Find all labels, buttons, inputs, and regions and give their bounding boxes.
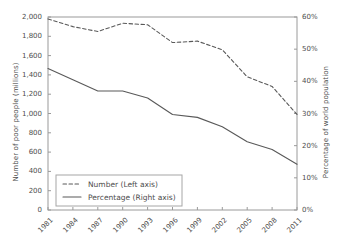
y-tick-label-right: 20%	[302, 142, 318, 150]
chart-canvas: Number (Left axis)Percentage (Right axis…	[0, 0, 344, 244]
y-tick-label-right: 0%	[302, 206, 313, 214]
y-tick-label-right: 50%	[302, 45, 318, 53]
y-tick-label-left: 200	[0, 187, 42, 195]
y-tick-label-left: 1,600	[0, 52, 42, 60]
y-tick-label-left: 1,200	[0, 90, 42, 98]
y-tick-label-right: 10%	[302, 174, 318, 182]
legend-label: Number (Left axis)	[88, 180, 158, 189]
y-tick-label-right: 40%	[302, 77, 318, 85]
legend-label: Percentage (Right axis)	[88, 193, 176, 202]
y-tick-label-right: 30%	[302, 110, 318, 118]
y-tick-label-left: 1,800	[0, 32, 42, 40]
data-series-layer	[48, 19, 297, 164]
y-tick-label-left: 0	[0, 206, 42, 214]
y-tick-label-left: 2,000	[0, 13, 42, 21]
y-tick-label-left: 600	[0, 148, 42, 156]
y-tick-label-left: 1,000	[0, 110, 42, 118]
chart-legend: Number (Left axis)Percentage (Right axis…	[56, 175, 182, 206]
chart-figure: Number (Left axis)Percentage (Right axis…	[0, 0, 344, 244]
y-tick-label-left: 1,400	[0, 71, 42, 79]
data-line-percentage	[48, 68, 297, 164]
y-tick-label-right: 60%	[302, 13, 318, 21]
y-tick-label-left: 800	[0, 129, 42, 137]
y-tick-label-left: 400	[0, 167, 42, 175]
data-line-number	[48, 19, 297, 115]
y-axis-right-title: Percentage of world population	[322, 47, 330, 197]
